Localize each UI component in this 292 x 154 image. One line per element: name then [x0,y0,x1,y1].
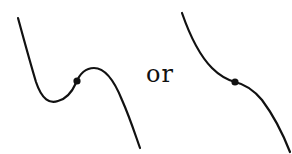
left-curve-panel [18,18,140,148]
left-inflection-point-dot [73,77,80,84]
or-connector-label: or [146,62,174,86]
right-inflection-point-dot [231,78,238,85]
right-curve-panel [182,13,290,152]
